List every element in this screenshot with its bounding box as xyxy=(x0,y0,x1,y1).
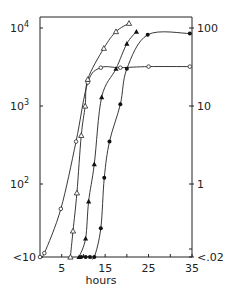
filled-triangle-marker xyxy=(92,161,97,166)
open-circle-marker xyxy=(119,66,123,70)
filled-circle-marker xyxy=(102,176,106,180)
filled-circle-marker xyxy=(79,255,83,259)
filled-circle-marker xyxy=(92,255,96,259)
x-axis-label: hours xyxy=(86,274,117,287)
open-circle-marker xyxy=(38,255,42,259)
growth-chart: 5152535<10102103104<.02110100 hours xyxy=(0,0,234,303)
series-curve xyxy=(40,67,190,258)
filled-circle-marker xyxy=(188,32,192,36)
open-circle-marker xyxy=(188,65,192,69)
x-tick-label: 5 xyxy=(58,262,65,275)
filled-triangle-marker xyxy=(86,199,91,204)
y-left-tick-label: 102 xyxy=(10,176,29,191)
open-triangle-marker xyxy=(74,190,79,195)
y-left-tick-label: <10 xyxy=(13,251,36,264)
open-triangle-marker xyxy=(79,133,84,138)
open-triangle-marker xyxy=(126,21,131,26)
filled-triangle-marker xyxy=(124,41,129,46)
axes xyxy=(40,17,194,257)
filled-triangle-marker xyxy=(134,29,139,34)
curves xyxy=(40,23,190,259)
y-right-tick-label: 1 xyxy=(197,178,204,191)
filled-circle-marker xyxy=(88,255,92,259)
filled-triangle-marker xyxy=(83,236,88,241)
open-circle-marker xyxy=(59,207,63,211)
open-circle-marker xyxy=(147,65,151,69)
x-tick-label: 25 xyxy=(142,262,156,275)
y-right-tick-label: 100 xyxy=(197,22,218,35)
filled-triangle-marker xyxy=(99,95,104,100)
open-circle-marker xyxy=(43,251,47,255)
filled-circle-marker xyxy=(125,67,129,71)
open-triangle-marker xyxy=(70,228,75,233)
open-circle-marker xyxy=(99,66,103,70)
markers xyxy=(38,21,192,259)
filled-circle-marker xyxy=(99,226,103,230)
open-circle-marker xyxy=(74,140,78,144)
filled-circle-marker xyxy=(107,140,111,144)
filled-circle-marker xyxy=(84,255,88,259)
y-left-tick-label: 104 xyxy=(10,20,29,35)
y-right-tick-label: 10 xyxy=(197,100,211,113)
series-curve xyxy=(81,32,190,259)
filled-circle-marker xyxy=(118,102,122,106)
y-left-tick-label: 103 xyxy=(10,98,29,113)
open-triangle-marker xyxy=(101,46,106,51)
y-right-tick-label: <.02 xyxy=(197,251,224,264)
filled-circle-marker xyxy=(146,33,150,37)
